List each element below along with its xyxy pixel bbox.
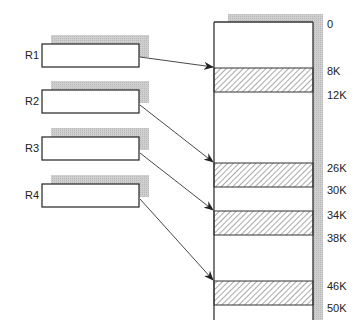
address-label: 8K	[327, 65, 341, 77]
allocated-region-8k	[214, 68, 313, 92]
register-label: R4	[25, 189, 39, 201]
pointer-arrows	[140, 57, 213, 280]
allocated-region-26k	[214, 163, 313, 187]
register-r2: R2	[25, 81, 149, 113]
address-label: 46K	[327, 280, 347, 292]
address-label: 34K	[327, 209, 347, 221]
arrow-r2-to-26k	[140, 105, 213, 162]
register-r3: R3	[25, 128, 149, 160]
arrow-r3-to-34k	[140, 153, 213, 210]
memory-diagram: 0 8K 12K 26K 30K 34K 38K 46K 50K R1 R2 R…	[0, 0, 364, 334]
address-label: 30K	[327, 184, 347, 196]
address-label: 12K	[327, 89, 347, 101]
memory-block	[214, 22, 313, 320]
register-label: R1	[25, 49, 39, 61]
arrow-r4-to-46k	[140, 199, 213, 280]
allocated-region-34k	[214, 211, 313, 235]
register-r4: R4	[25, 175, 149, 207]
address-labels: 0 8K 12K 26K 30K 34K 38K 46K 50K	[327, 18, 347, 314]
arrow-r1-to-8k	[140, 57, 213, 67]
address-label: 38K	[327, 232, 347, 244]
address-label: 0	[327, 18, 333, 30]
address-label: 26K	[327, 162, 347, 174]
register-r1: R1	[25, 35, 149, 67]
register-label: R3	[25, 142, 39, 154]
allocated-region-46k	[214, 281, 313, 305]
register-label: R2	[25, 95, 39, 107]
address-label: 50K	[327, 302, 347, 314]
